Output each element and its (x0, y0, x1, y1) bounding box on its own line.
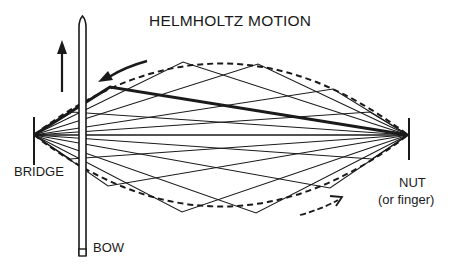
arrow-up-icon (57, 40, 67, 92)
envelope-bottom (34, 135, 408, 207)
bridge-label: BRIDGE (14, 165, 64, 178)
diagram-title: HELMHOLTZ MOTION (149, 13, 311, 29)
arrow-left-curved-icon (98, 61, 147, 82)
string-snapshots-bottom (34, 135, 408, 213)
string-current (34, 87, 408, 135)
nut-sublabel: (or finger) (378, 193, 434, 206)
nut-label: NUT (399, 176, 426, 189)
bow-label: BOW (93, 241, 124, 254)
bow (79, 16, 86, 256)
helmholtz-diagram (0, 0, 452, 271)
arrow-right-dashed-icon (300, 196, 342, 215)
